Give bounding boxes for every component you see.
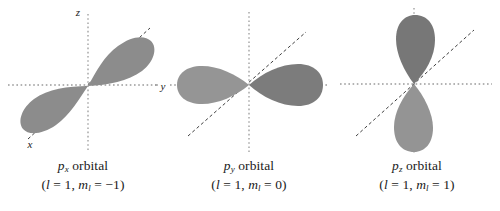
pz-caption-line2: (l = 1, ml = 1) [334,177,500,196]
orbital-panel-py: py orbital (l = 1, ml = 0) [166,0,332,211]
z-axis-label: z [75,6,81,18]
py-lobe-left [177,66,249,104]
py-caption: py orbital (l = 1, ml = 0) [166,158,332,196]
px-orbital-diagram: z y x [0,2,166,158]
x-axis-label: x [27,138,33,150]
pz-orbital-diagram [334,2,500,158]
px-lobe-upper [88,37,154,86]
pz-lobe-top [396,15,435,84]
px-caption-line2: (l = 1, ml = −1) [0,177,166,196]
py-lobe-right [249,64,323,106]
py-caption-line1: py orbital [166,158,332,177]
py-orbital-diagram [166,2,332,158]
orbital-panel-px: z y x px orbital (l = 1, ml = −1) [0,0,166,211]
px-caption-line1: px orbital [0,158,166,177]
px-caption: px orbital (l = 1, ml = −1) [0,158,166,196]
pz-caption-line1: pz orbital [334,158,500,177]
p-orbitals-figure: z y x px orbital (l = 1, ml = −1) [0,0,500,211]
pz-lobe-bottom [394,84,433,152]
py-caption-line2: (l = 1, ml = 0) [166,177,332,196]
pz-caption: pz orbital (l = 1, ml = 1) [334,158,500,196]
px-lobe-lower [20,86,88,133]
y-axis-label: y [160,80,166,92]
orbital-panel-pz: pz orbital (l = 1, ml = 1) [334,0,500,211]
